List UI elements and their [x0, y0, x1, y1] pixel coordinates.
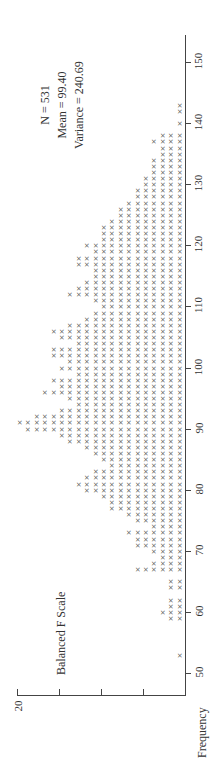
data-mark: × — [135, 518, 142, 524]
frequency-tick — [17, 689, 18, 696]
data-mark: × — [110, 292, 117, 298]
data-mark: × — [101, 310, 108, 316]
data-mark: × — [135, 475, 142, 481]
data-mark: × — [118, 487, 125, 493]
data-mark: × — [127, 231, 134, 237]
data-mark: × — [68, 414, 75, 420]
data-mark: × — [177, 371, 184, 377]
data-mark: × — [177, 561, 184, 567]
data-mark: × — [135, 481, 142, 487]
data-mark: × — [118, 267, 125, 273]
data-mark: × — [93, 255, 100, 261]
data-mark: × — [127, 200, 134, 206]
data-mark: × — [177, 390, 184, 396]
data-mark: × — [177, 249, 184, 255]
data-mark: × — [43, 420, 50, 426]
data-mark: × — [135, 536, 142, 542]
data-mark: × — [177, 188, 184, 194]
data-mark: × — [152, 536, 159, 542]
data-mark: × — [143, 518, 150, 524]
data-mark: × — [76, 426, 83, 432]
data-mark: × — [169, 237, 176, 243]
score-axis — [185, 35, 186, 695]
data-mark: × — [110, 463, 117, 469]
data-mark: × — [160, 444, 167, 450]
data-mark: × — [51, 347, 58, 353]
data-mark: × — [118, 444, 125, 450]
data-mark: × — [152, 548, 159, 554]
data-mark: × — [59, 390, 66, 396]
data-mark: × — [118, 390, 125, 396]
data-mark: × — [160, 322, 167, 328]
data-mark: × — [152, 292, 159, 298]
data-mark: × — [169, 261, 176, 267]
data-mark: × — [93, 402, 100, 408]
score-tick — [185, 184, 191, 185]
data-mark: × — [152, 359, 159, 365]
data-mark: × — [143, 255, 150, 261]
data-mark: × — [160, 231, 167, 237]
data-mark: × — [110, 341, 117, 347]
data-mark: × — [160, 328, 167, 334]
data-mark: × — [127, 322, 134, 328]
data-mark: × — [160, 310, 167, 316]
data-mark: × — [169, 218, 176, 224]
data-mark: × — [169, 499, 176, 505]
data-mark: × — [152, 432, 159, 438]
data-mark: × — [127, 493, 134, 499]
data-mark: × — [135, 347, 142, 353]
data-mark: × — [152, 567, 159, 573]
data-mark: × — [169, 567, 176, 573]
data-mark: × — [143, 188, 150, 194]
data-mark: × — [110, 286, 117, 292]
data-mark: × — [177, 518, 184, 524]
data-mark: × — [93, 475, 100, 481]
data-mark: × — [76, 359, 83, 365]
data-mark: × — [110, 359, 117, 365]
data-mark: × — [143, 341, 150, 347]
data-mark: × — [143, 206, 150, 212]
data-mark: × — [177, 536, 184, 542]
data-mark: × — [177, 579, 184, 585]
data-mark: × — [177, 225, 184, 231]
data-mark: × — [76, 286, 83, 292]
data-mark: × — [93, 322, 100, 328]
score-tick — [185, 368, 191, 369]
data-mark: × — [177, 237, 184, 243]
data-mark: × — [110, 280, 117, 286]
data-mark: × — [135, 371, 142, 377]
data-mark: × — [169, 280, 176, 286]
data-mark: × — [160, 145, 167, 151]
data-mark: × — [127, 335, 134, 341]
data-mark: × — [152, 335, 159, 341]
data-mark: × — [51, 328, 58, 334]
data-mark: × — [110, 231, 117, 237]
data-mark: × — [169, 267, 176, 273]
data-mark: × — [152, 396, 159, 402]
data-mark: × — [135, 499, 142, 505]
data-mark: × — [101, 359, 108, 365]
data-mark: × — [118, 218, 125, 224]
data-mark: × — [118, 396, 125, 402]
data-mark: × — [59, 426, 66, 432]
data-mark: × — [169, 390, 176, 396]
score-tick — [185, 245, 191, 246]
data-mark: × — [118, 414, 125, 420]
data-mark: × — [101, 328, 108, 334]
data-mark: × — [68, 359, 75, 365]
data-mark: × — [135, 231, 142, 237]
data-mark: × — [59, 420, 66, 426]
data-mark: × — [160, 298, 167, 304]
data-mark: × — [59, 365, 66, 371]
data-mark: × — [169, 616, 176, 622]
data-mark: × — [110, 432, 117, 438]
data-mark: × — [143, 243, 150, 249]
data-mark: × — [152, 139, 159, 145]
data-mark: × — [160, 414, 167, 420]
data-mark: × — [34, 426, 41, 432]
data-mark: × — [135, 383, 142, 389]
data-mark: × — [169, 225, 176, 231]
data-mark: × — [85, 335, 92, 341]
data-mark: × — [160, 463, 167, 469]
data-mark: × — [101, 267, 108, 273]
